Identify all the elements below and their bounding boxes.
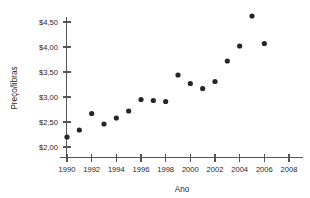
data-point	[163, 99, 168, 104]
y-tick-label-2: $3,00	[39, 93, 58, 102]
y-axis-tick-labels: $2,00$2,50$3,00$3,50$4,00$4,50	[39, 18, 58, 152]
x-tick-label-0: 1990	[59, 165, 76, 174]
data-point	[101, 121, 106, 126]
data-point	[262, 41, 267, 46]
data-point	[126, 108, 131, 113]
data-point	[64, 134, 69, 139]
data-point	[138, 97, 143, 102]
data-point	[188, 81, 193, 86]
x-axis-title: Ano	[175, 185, 190, 194]
data-point	[200, 86, 205, 91]
x-tick-label-6: 2002	[207, 165, 224, 174]
y-tick-label-1: $2,50	[39, 118, 58, 127]
y-tick-label-5: $4,50	[39, 18, 58, 27]
x-tick-label-5: 2000	[182, 165, 199, 174]
data-point	[212, 79, 217, 84]
data-point	[77, 127, 82, 132]
x-tick-label-8: 2006	[256, 165, 273, 174]
data-point	[175, 72, 180, 77]
y-axis-title: Preço/libras	[10, 66, 19, 109]
y-tick-label-0: $2,00	[39, 143, 58, 152]
data-point	[249, 13, 254, 18]
chart-canvas: $2,00$2,50$3,00$3,50$4,00$4,50 199019921…	[0, 0, 310, 198]
x-tick-label-1: 1992	[83, 165, 100, 174]
data-point	[151, 98, 156, 103]
data-point	[225, 58, 230, 63]
x-tick-label-9: 2008	[281, 165, 298, 174]
x-axis-tick-labels: 1990199219941996199820002002200420062008	[59, 165, 298, 174]
data-point	[237, 43, 242, 48]
data-point-group	[64, 13, 267, 139]
data-point	[89, 111, 94, 116]
y-tick-label-3: $3,50	[39, 68, 58, 77]
y-tick-label-4: $4,00	[39, 43, 58, 52]
scatter-chart: $2,00$2,50$3,00$3,50$4,00$4,50 199019921…	[0, 0, 310, 198]
x-tick-label-2: 1994	[108, 165, 125, 174]
x-tick-label-7: 2004	[231, 165, 248, 174]
x-tick-label-3: 1996	[133, 165, 150, 174]
x-tick-label-4: 1998	[157, 165, 174, 174]
data-point	[114, 115, 119, 120]
